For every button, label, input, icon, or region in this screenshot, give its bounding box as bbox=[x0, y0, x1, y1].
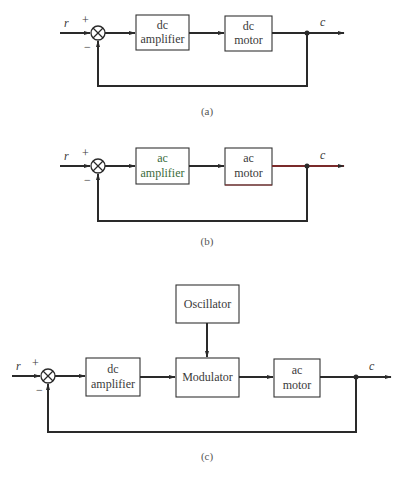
diagram-c: r + − dc amplifier Oscillator Modulator … bbox=[12, 285, 391, 463]
block-label-line1: dc bbox=[243, 19, 254, 33]
block-label-line1: ac bbox=[292, 363, 303, 377]
block-oscillator: Oscillator bbox=[176, 285, 239, 323]
plus-sign: + bbox=[82, 146, 89, 160]
block-label-line2: amplifier bbox=[91, 377, 135, 391]
output-label: c bbox=[320, 15, 326, 29]
block-dc-amplifier: dc amplifier bbox=[136, 15, 189, 50]
caption: (b) bbox=[201, 235, 214, 248]
block-modulator: Modulator bbox=[176, 358, 239, 397]
feedback-path bbox=[98, 166, 307, 221]
minus-sign: − bbox=[36, 383, 43, 397]
block-label-line2: motor bbox=[234, 33, 263, 47]
block-label: Oscillator bbox=[184, 297, 231, 311]
caption: (c) bbox=[201, 450, 214, 463]
minus-sign: − bbox=[84, 40, 91, 54]
block-label: Modulator bbox=[182, 370, 233, 384]
feedback-path bbox=[98, 33, 307, 86]
block-label-line1: ac bbox=[157, 151, 168, 165]
input-label: r bbox=[64, 16, 69, 30]
summing-junction-icon bbox=[91, 159, 105, 173]
block-label-line2: motor bbox=[283, 378, 312, 392]
plus-sign: + bbox=[82, 13, 89, 27]
block-label-line2: motor bbox=[234, 166, 263, 180]
block-label-line1: dc bbox=[157, 18, 168, 32]
block-label-line2: amplifier bbox=[141, 166, 185, 180]
summing-junction-icon bbox=[91, 26, 105, 40]
block-dc-motor: dc motor bbox=[225, 16, 272, 51]
caption: (a) bbox=[201, 105, 214, 118]
block-dc-amplifier: dc amplifier bbox=[86, 358, 140, 396]
summing-junction-icon bbox=[41, 369, 55, 383]
block-ac-amplifier: ac amplifier bbox=[136, 148, 189, 184]
output-label: c bbox=[369, 359, 375, 373]
control-system-diagrams: r + − dc amplifier dc motor c (a) r + − bbox=[0, 0, 413, 477]
block-label-line1: dc bbox=[107, 362, 118, 376]
block-label-line2: amplifier bbox=[141, 32, 185, 46]
diagram-a: r + − dc amplifier dc motor c (a) bbox=[60, 13, 344, 118]
minus-sign: − bbox=[84, 173, 91, 187]
block-ac-motor: ac motor bbox=[225, 148, 272, 185]
plus-sign: + bbox=[32, 356, 39, 370]
input-label: r bbox=[16, 359, 21, 373]
diagram-b: r + − ac amplifier ac motor c (b) bbox=[60, 146, 344, 248]
output-label: c bbox=[320, 148, 326, 162]
block-ac-motor: ac motor bbox=[274, 359, 320, 397]
input-label: r bbox=[64, 149, 69, 163]
block-label-line1: ac bbox=[243, 151, 254, 165]
